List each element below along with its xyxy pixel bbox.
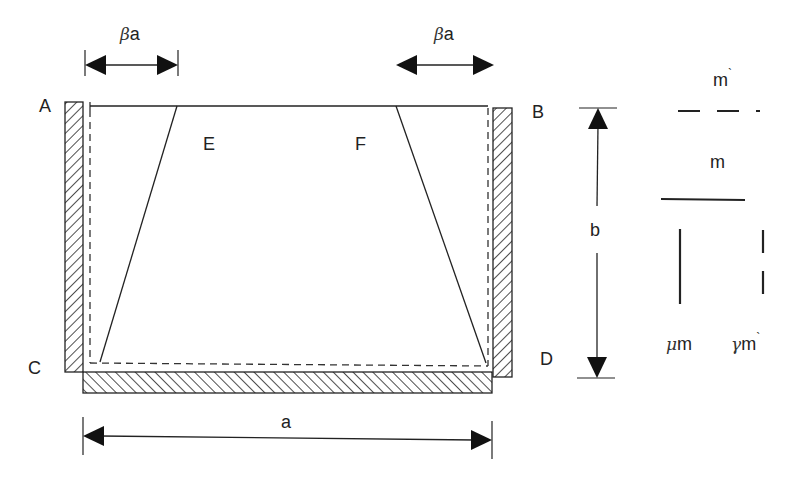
svg-text:m`: m` — [713, 67, 732, 90]
svg-text:βa: βa — [119, 24, 141, 44]
legend-positive-moment-vertical: μm — [666, 229, 692, 354]
corner-label-c: C — [28, 358, 41, 378]
legend: m` m μm γm` — [661, 67, 763, 354]
width-dimension-a: a — [83, 412, 492, 459]
bottom-support — [83, 372, 492, 393]
dimension-var-a: a — [444, 24, 455, 44]
region-label-e: E — [203, 134, 215, 154]
legend-negative-moment-horizontal: m` — [678, 67, 760, 111]
yield-line-e — [100, 106, 177, 362]
corner-label-a: A — [39, 96, 51, 116]
negative-yield-lines — [90, 108, 488, 366]
height-label: b — [590, 220, 600, 240]
legend-positive-moment-horizontal: m — [661, 152, 745, 200]
beta-symbol: β — [433, 24, 444, 44]
legend-negative-moment-vertical: γm` — [731, 230, 763, 354]
height-dimension-b: b — [577, 108, 617, 378]
dimension-var-a: a — [130, 24, 141, 44]
corner-label-b: B — [532, 102, 544, 122]
left-wall-support — [65, 102, 83, 372]
svg-text:βa: βa — [433, 24, 455, 44]
left-beta-a-dimension: βa — [85, 24, 178, 76]
svg-text:γm`: γm` — [731, 331, 760, 354]
right-beta-a-dimension: βa — [396, 24, 494, 75]
svg-text:μm: μm — [666, 334, 692, 354]
right-wall-support — [493, 108, 512, 377]
beta-symbol: β — [119, 24, 130, 44]
width-label: a — [281, 412, 292, 432]
corner-label-d: D — [540, 349, 553, 369]
yield-line-f — [396, 106, 486, 363]
region-label-f: F — [355, 134, 366, 154]
yield-line-diagram: A B C D E F βa βa a b — [0, 0, 793, 487]
svg-text:m: m — [710, 152, 725, 172]
